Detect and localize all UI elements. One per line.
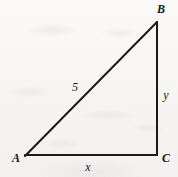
vertex-label-c: C [159, 152, 173, 164]
triangle-drawing [0, 0, 178, 177]
side-ab-hypotenuse-line [25, 22, 157, 156]
side-length-label-vertical: y [159, 89, 173, 101]
geometry-figure: B A C 5 y x [0, 0, 178, 177]
vertex-label-b: B [154, 3, 168, 15]
side-length-label-horizontal: x [81, 161, 95, 173]
side-length-label-hypotenuse: 5 [68, 81, 82, 93]
vertex-label-a: A [9, 152, 23, 164]
